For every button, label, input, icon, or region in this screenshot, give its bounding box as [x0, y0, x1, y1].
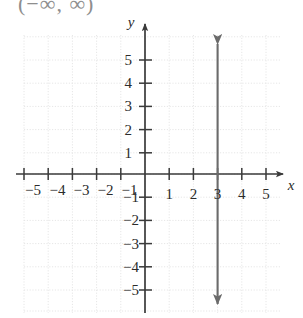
y-tick-label: −1: [123, 189, 139, 205]
x-tick-labels: −5 −4 −3 −2 −1 1 2 3 4 5: [25, 182, 270, 202]
axis-lines: [16, 24, 283, 313]
x-tick-label: −4: [50, 182, 66, 198]
graph-figure: (−∞, ∞): [0, 0, 303, 318]
y-tick-label: −2: [123, 212, 139, 228]
x-tick-label: 4: [238, 186, 246, 202]
x-tick-label: −5: [25, 182, 41, 198]
x-axis-label: x: [287, 177, 295, 193]
x-tick-label: −2: [98, 182, 114, 198]
cartesian-plane: y x −5 −4 −3 −2 −1 1 2 3 4 5 5 4 3 2 1 −…: [0, 0, 303, 318]
y-tick-label: 4: [125, 75, 133, 91]
y-tick-label: −4: [123, 259, 139, 275]
y-tick-label: −3: [123, 236, 139, 252]
x-tick-label: 2: [190, 186, 198, 202]
y-axis-label: y: [126, 14, 135, 30]
y-tick-labels: 5 4 3 2 1 −1 −2 −3 −4 −5: [123, 52, 139, 298]
x-tick-label: −3: [74, 182, 90, 198]
y-tick-label: 3: [125, 98, 133, 114]
x-tick-label: 3: [214, 186, 222, 202]
x-tick-label: 1: [165, 186, 173, 202]
y-tick-label: 5: [125, 52, 133, 68]
y-tick-label: −5: [123, 282, 139, 298]
x-tick-label: 5: [262, 186, 270, 202]
y-tick-label: 1: [125, 145, 133, 161]
y-tick-label: 2: [125, 122, 133, 138]
